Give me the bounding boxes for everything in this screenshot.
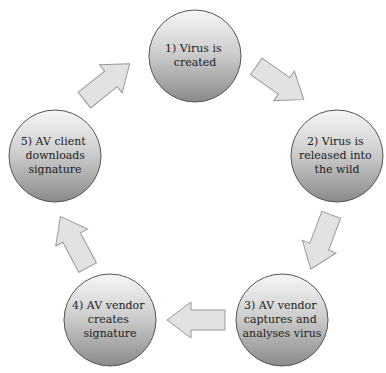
virus-lifecycle-diagram: 1) Virus is created 2) Virus is released… — [0, 0, 386, 373]
node-5-line-3: signature — [28, 163, 81, 176]
node-3-line-2: captures and — [244, 313, 317, 326]
node-av-client-downloads: 5) AV client downloads signature — [9, 110, 101, 202]
svg-text:5) AV client downloads: 5) AV client downloads signature — [21, 135, 89, 176]
node-2-line-1: 2) Virus is — [307, 135, 364, 148]
arrow-2-to-3-icon — [294, 209, 348, 276]
node-virus-created: 1) Virus is created — [149, 10, 241, 102]
node-5-line-1: 5) AV client — [21, 135, 86, 148]
arrow-5-to-1-icon — [73, 50, 141, 114]
node-5-line-2: downloads — [25, 149, 85, 162]
svg-text:3) AV vendor captures an: 3) AV vendor captures and analyses virus — [243, 299, 322, 340]
svg-text:1) Virus is created: 1) Virus is created — [165, 42, 225, 69]
node-4-line-2: creates — [88, 313, 129, 326]
node-1-line-2: created — [174, 56, 216, 69]
node-4-line-1: 4) AV vendor — [72, 299, 145, 312]
arrow-3-to-4-icon — [167, 302, 225, 338]
node-virus-released: 2) Virus is released into the wild — [291, 110, 383, 202]
node-1-line-1: 1) Virus is — [165, 42, 222, 55]
node-2-line-3: the wild — [314, 163, 359, 176]
node-av-vendor-creates-signature: 4) AV vendor creates signature — [64, 274, 156, 366]
node-3-line-3: analyses virus — [243, 327, 322, 340]
node-3-line-1: 3) AV vendor — [244, 299, 317, 312]
arrow-4-to-5-icon — [44, 208, 103, 276]
node-4-line-3: signature — [83, 327, 136, 340]
node-av-vendor-captures: 3) AV vendor captures and analyses virus — [236, 274, 328, 366]
arrow-1-to-2-icon — [246, 52, 314, 115]
node-2-line-2: released into — [299, 149, 372, 162]
